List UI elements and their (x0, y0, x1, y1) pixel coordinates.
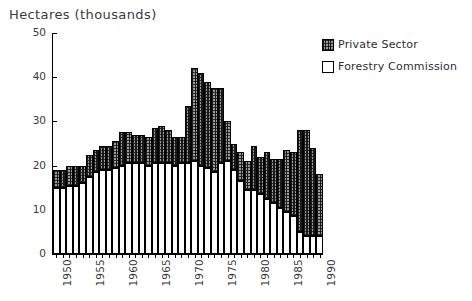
x-tick-label: 1955 (94, 259, 106, 287)
y-tick-label: 50 (16, 26, 46, 38)
bar-segment-private-sector (165, 130, 172, 163)
bar-1954 (79, 33, 86, 254)
bar-segment-private-sector (264, 152, 271, 198)
bar-segment-private-sector (270, 159, 277, 203)
x-tick (201, 254, 202, 258)
bar-segment-forestry-commission (251, 190, 258, 254)
bar-1950 (53, 33, 60, 254)
bar-1955 (86, 33, 93, 254)
bar-1957 (99, 33, 106, 254)
bar-segment-private-sector (79, 166, 86, 184)
bar-segment-forestry-commission (211, 172, 218, 254)
bar-1982 (264, 33, 271, 254)
bar-segment-forestry-commission (119, 166, 126, 254)
bar-1979 (244, 33, 251, 254)
x-tick (116, 254, 117, 258)
x-tick-label: 1980 (259, 259, 271, 287)
x-tick (148, 254, 149, 258)
x-tick-label: 1975 (226, 259, 238, 287)
bar-1986 (290, 33, 297, 254)
bar-1959 (112, 33, 119, 254)
chart-figure: Hectares (thousands) 01020304050 1950195… (0, 0, 472, 301)
bar-segment-forestry-commission (125, 163, 132, 254)
bar-1974 (211, 33, 218, 254)
x-tick (313, 254, 314, 258)
bar-segment-forestry-commission (277, 208, 284, 254)
bar-segment-forestry-commission (158, 163, 165, 254)
x-tick-label: 1990 (325, 259, 337, 287)
bar-segment-private-sector (178, 137, 185, 164)
y-tick-label: 40 (16, 70, 46, 82)
bar-segment-private-sector (211, 88, 218, 172)
bar-segment-private-sector (158, 126, 165, 164)
bar-1981 (257, 33, 264, 254)
x-tick (89, 254, 90, 258)
bar-segment-private-sector (316, 174, 323, 236)
y-tick-label: 0 (16, 247, 46, 259)
legend-label-private-sector: Private Sector (338, 38, 418, 51)
bar-segment-forestry-commission (112, 168, 119, 254)
x-tick (102, 254, 103, 258)
bar-1965 (152, 33, 159, 254)
x-tick (228, 254, 229, 258)
bar-segment-forestry-commission (139, 163, 146, 254)
x-tick (188, 254, 189, 258)
bar-segment-private-sector (244, 161, 251, 190)
x-tick (234, 254, 235, 258)
bar-1964 (145, 33, 152, 254)
bar-segment-private-sector (303, 130, 310, 236)
x-tick (83, 254, 84, 258)
x-tick (260, 254, 261, 258)
bar-segment-forestry-commission (218, 163, 225, 254)
bar-segment-private-sector (139, 135, 146, 164)
bar-segment-forestry-commission (152, 163, 159, 254)
bar-segment-private-sector (198, 73, 205, 166)
bar-segment-forestry-commission (99, 170, 106, 254)
bar-1985 (283, 33, 290, 254)
bar-segment-forestry-commission (93, 172, 100, 254)
bar-segment-private-sector (191, 68, 198, 161)
x-tick (63, 254, 64, 258)
bar-1973 (204, 33, 211, 254)
bar-1958 (106, 33, 113, 254)
y-tick-label: 30 (16, 114, 46, 126)
bar-segment-private-sector (125, 132, 132, 163)
bar-1966 (158, 33, 165, 254)
bar-segment-forestry-commission (178, 163, 185, 254)
plot-area (53, 33, 323, 254)
bar-1970 (185, 33, 192, 254)
bar-segment-forestry-commission (257, 194, 264, 254)
bar-1989 (310, 33, 317, 254)
x-tick-label: 1950 (61, 259, 73, 287)
bar-segment-private-sector (152, 128, 159, 163)
bar-segment-forestry-commission (224, 161, 231, 254)
chart-title: Hectares (thousands) (9, 7, 157, 22)
bar-1960 (119, 33, 126, 254)
y-tick-label: 20 (16, 159, 46, 171)
x-tick (175, 254, 176, 258)
x-tick (293, 254, 294, 258)
x-tick (135, 254, 136, 258)
bar-1971 (191, 33, 198, 254)
x-tick (274, 254, 275, 258)
bar-1983 (270, 33, 277, 254)
x-tick (162, 254, 163, 258)
bar-segment-private-sector (119, 132, 126, 165)
x-tick (181, 254, 182, 258)
x-tick (320, 254, 321, 258)
bar-segment-forestry-commission (316, 236, 323, 254)
bar-1967 (165, 33, 172, 254)
x-tick (76, 254, 77, 258)
bar-1963 (139, 33, 146, 254)
bar-1984 (277, 33, 284, 254)
bar-1975 (218, 33, 225, 254)
bar-segment-forestry-commission (198, 166, 205, 254)
x-tick (208, 254, 209, 258)
legend-label-forestry-commission: Forestry Commission (338, 60, 457, 73)
bar-segment-private-sector (66, 166, 73, 186)
bar-segment-private-sector (310, 148, 317, 236)
bar-segment-private-sector (231, 144, 238, 171)
x-tick (221, 254, 222, 258)
x-tick (168, 254, 169, 258)
x-tick (254, 254, 255, 258)
